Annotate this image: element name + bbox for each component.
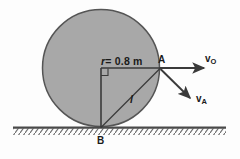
physics-figure: r= 0.8 m A B l vO vA — [0, 0, 240, 159]
vO-base: v — [205, 53, 211, 64]
vO-subscript: O — [211, 57, 217, 66]
vA-base: v — [196, 93, 202, 104]
vA-subscript: A — [202, 97, 207, 106]
figure-canvas — [0, 0, 240, 159]
vector-vA-arrow — [161, 69, 191, 98]
vector-label-vA: vA — [196, 94, 207, 104]
radius-value: = 0.8 m — [105, 55, 142, 67]
chord-length-label: l — [130, 94, 133, 105]
ground-hatch — [13, 128, 226, 135]
point-label-A: A — [158, 55, 165, 65]
point-label-B: B — [97, 136, 104, 146]
radius-label: r= 0.8 m — [101, 56, 143, 67]
vector-label-vO: vO — [205, 54, 216, 64]
